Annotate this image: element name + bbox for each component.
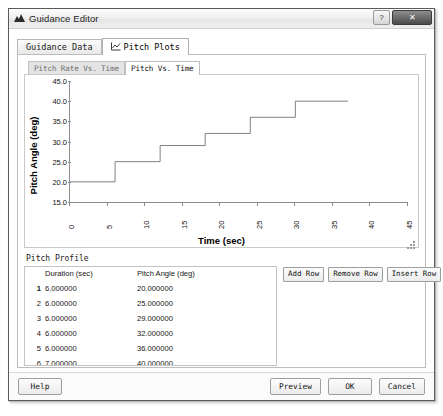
row-index: 1 [25, 281, 45, 296]
tab-guidance-data[interactable]: Guidance Data [17, 39, 102, 54]
y-tick-label: 25.0 [41, 157, 67, 166]
row-index: 4 [25, 326, 45, 341]
pitch-profile-table: Duration (sec) Pitch Angle (deg) 16.0000… [25, 267, 276, 366]
row-index: 2 [25, 296, 45, 311]
row-index: 5 [25, 341, 45, 356]
cell-pitch-angle[interactable]: 25.000000 [137, 296, 276, 311]
cancel-button[interactable]: Cancel [379, 378, 425, 395]
cell-duration[interactable]: 6.000000 [45, 341, 137, 356]
x-tick-label: 45 [405, 221, 414, 229]
window-controls: ? ✕ [373, 10, 432, 25]
preview-button[interactable]: Preview [270, 378, 321, 395]
x-axis-label: Time (sec) [25, 235, 418, 246]
x-tick-mark [294, 203, 295, 206]
y-tick-label: 20.0 [41, 177, 67, 186]
table-row[interactable]: 56.00000036.000000 [25, 341, 276, 356]
question-mark-icon: ? [379, 13, 383, 22]
cell-pitch-angle[interactable]: 36.000000 [137, 341, 276, 356]
column-header-index [25, 267, 45, 281]
x-tick-mark [407, 203, 408, 206]
guidance-editor-window: Guidance Editor ? ✕ Guidance Data [8, 8, 435, 401]
x-tick-label: 15 [180, 221, 189, 229]
tab-pitch-vs-time[interactable]: Pitch Vs. Time [125, 61, 200, 75]
y-tick-label: 35.0 [41, 117, 67, 126]
y-tick-label: 30.0 [41, 137, 67, 146]
pitch-profile-body: Duration (sec) Pitch Angle (deg) 16.0000… [24, 266, 419, 367]
cell-pitch-angle[interactable]: 20.000000 [137, 281, 276, 296]
add-row-button[interactable]: Add Row [283, 267, 324, 282]
x-tick-label: 5 [105, 225, 114, 229]
tab-pitch-plots[interactable]: Pitch Plots [102, 38, 189, 55]
cell-duration[interactable]: 6.000000 [45, 326, 137, 341]
window-body: Guidance Data Pitch Plots Pitch Rate Vs. [9, 29, 434, 400]
help-titlebar-button[interactable]: ? [373, 10, 390, 25]
x-tick-label: 10 [142, 221, 151, 229]
line-chart-icon [111, 42, 121, 53]
pitch-plots-panel: Pitch Rate Vs. Time Pitch Vs. Time Pitch… [17, 54, 426, 368]
help-button[interactable]: Help [18, 378, 62, 395]
cell-duration[interactable]: 6.000000 [45, 281, 137, 296]
pitch-vs-time-chart: Pitch Angle (deg) 15.020.025.030.035.040… [25, 75, 418, 247]
pitch-profile-table-frame[interactable]: Duration (sec) Pitch Angle (deg) 16.0000… [24, 266, 277, 366]
x-tick-mark [107, 203, 108, 206]
plot-canvas [69, 81, 408, 203]
row-buttons-group: Add Row Remove Row Insert Row [283, 266, 441, 282]
x-tick-label: 30 [292, 221, 301, 229]
table-header: Duration (sec) Pitch Angle (deg) [25, 267, 276, 281]
app-chart-icon [14, 13, 25, 24]
y-axis-ticks: 15.020.025.030.035.040.045.0 [39, 75, 67, 247]
x-tick-label: 20 [217, 221, 226, 229]
table-row[interactable]: 16.00000020.000000 [25, 281, 276, 296]
tab-pitch-vs-time-label: Pitch Vs. Time [131, 64, 194, 73]
insert-row-button[interactable]: Insert Row [387, 267, 442, 282]
window-title: Guidance Editor [29, 13, 99, 24]
y-tick-label: 45.0 [41, 77, 67, 86]
close-icon: ✕ [409, 13, 416, 22]
tab-guidance-data-label: Guidance Data [26, 42, 93, 52]
row-index: 6 [25, 356, 45, 366]
tab-pitch-plots-label: Pitch Plots [124, 42, 180, 52]
cell-duration[interactable]: 6.000000 [45, 296, 137, 311]
tab-pitch-rate-vs-time[interactable]: Pitch Rate Vs. Time [28, 61, 125, 74]
table-header-row: Duration (sec) Pitch Angle (deg) [25, 267, 276, 281]
x-tick-label: 25 [255, 221, 264, 229]
inner-tabstrip: Pitch Rate Vs. Time Pitch Vs. Time [28, 60, 419, 74]
row-index: 3 [25, 311, 45, 326]
plot-section: Pitch Rate Vs. Time Pitch Vs. Time Pitch… [24, 60, 419, 248]
table-body: 16.00000020.00000026.00000025.00000036.0… [25, 281, 276, 366]
pitch-profile-label: Pitch Profile [26, 254, 419, 263]
cell-pitch-angle[interactable]: 32.000000 [137, 326, 276, 341]
cell-pitch-angle[interactable]: 40.000000 [137, 356, 276, 366]
x-tick-label: 0 [67, 225, 76, 229]
footer-bar: Help Preview OK Cancel [9, 372, 434, 400]
table-row[interactable]: 67.00000040.000000 [25, 356, 276, 366]
footer-right-buttons: Preview OK Cancel [270, 378, 425, 395]
x-tick-label: 40 [367, 221, 376, 229]
plot-frame[interactable]: Pitch Angle (deg) 15.020.025.030.035.040… [24, 74, 419, 248]
cell-duration[interactable]: 6.000000 [45, 311, 137, 326]
x-tick-mark [369, 203, 370, 206]
table-row[interactable]: 26.00000025.000000 [25, 296, 276, 311]
table-row[interactable]: 36.00000029.000000 [25, 311, 276, 326]
x-tick-mark [332, 203, 333, 206]
column-header-duration: Duration (sec) [45, 267, 137, 281]
cell-duration[interactable]: 7.000000 [45, 356, 137, 366]
cell-pitch-angle[interactable]: 29.000000 [137, 311, 276, 326]
x-tick-mark [69, 203, 70, 206]
table-row[interactable]: 46.00000032.000000 [25, 326, 276, 341]
y-tick-label: 15.0 [41, 198, 67, 207]
remove-row-button[interactable]: Remove Row [328, 267, 383, 282]
x-tick-label: 35 [330, 221, 339, 229]
pitch-step-series [70, 81, 408, 202]
x-tick-mark [219, 203, 220, 206]
x-tick-mark [257, 203, 258, 206]
pitch-profile-section: Pitch Profile Duration (sec) Pitch Angle… [24, 254, 419, 367]
ok-button[interactable]: OK [328, 378, 372, 395]
y-tick-label: 40.0 [41, 97, 67, 106]
close-window-button[interactable]: ✕ [392, 10, 432, 25]
tab-pitch-rate-vs-time-label: Pitch Rate Vs. Time [34, 64, 119, 73]
column-header-pitch-angle: Pitch Angle (deg) [137, 267, 276, 281]
x-tick-mark [144, 203, 145, 206]
resize-grip-icon[interactable] [407, 236, 416, 245]
outer-tabstrip: Guidance Data Pitch Plots [17, 37, 434, 54]
